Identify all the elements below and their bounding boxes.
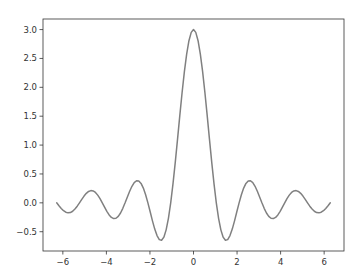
- x-tick-label: 4: [278, 257, 283, 267]
- line-chart: −6−4−20246 −0.50.00.51.01.52.02.53.0: [0, 0, 361, 278]
- x-tick-label: −2: [144, 257, 157, 267]
- y-tick-label: 1.0: [23, 140, 37, 150]
- y-tick-label: 3.0: [23, 25, 37, 35]
- figure-background: [0, 0, 361, 278]
- x-tick-label: 2: [234, 257, 239, 267]
- x-tick-label: 6: [321, 257, 326, 267]
- y-tick-label: 2.5: [23, 53, 37, 63]
- x-tick-label: −6: [57, 257, 70, 267]
- y-tick-label: 0.0: [23, 198, 37, 208]
- y-tick-label: 0.5: [23, 169, 37, 179]
- y-tick-label: −0.5: [16, 227, 37, 237]
- y-tick-label: 1.5: [23, 111, 37, 121]
- x-tick-label: 0: [191, 257, 196, 267]
- y-tick-label: 2.0: [23, 82, 37, 92]
- x-tick-label: −4: [100, 257, 113, 267]
